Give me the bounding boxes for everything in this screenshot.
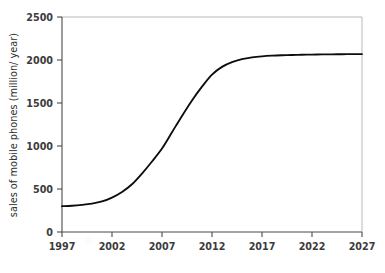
x-tick-label-2012: 2012 (199, 241, 226, 252)
x-tick-label-2022: 2022 (299, 241, 326, 252)
y-tick-label-2000: 2000 (26, 55, 53, 66)
y-axis-ticks (57, 17, 62, 232)
y-tick-label-1000: 1000 (26, 141, 53, 152)
y-axis-title: sales of mobile phones (million/ year) (8, 33, 19, 217)
line-chart-svg: 0 500 1000 1500 2000 2500 1997 2002 2007… (0, 0, 385, 273)
y-tick-label-1500: 1500 (26, 98, 53, 109)
x-tick-label-1997: 1997 (49, 241, 76, 252)
x-tick-label-2002: 2002 (99, 241, 126, 252)
x-tick-label-2007: 2007 (149, 241, 176, 252)
x-axis-ticks (62, 232, 362, 237)
chart-figure: 0 500 1000 1500 2000 2500 1997 2002 2007… (0, 0, 385, 273)
x-tick-label-2017: 2017 (249, 241, 276, 252)
y-tick-label-2500: 2500 (26, 12, 53, 23)
y-tick-label-500: 500 (33, 184, 53, 195)
x-tick-label-2027: 2027 (349, 241, 376, 252)
y-tick-label-0: 0 (46, 227, 53, 238)
